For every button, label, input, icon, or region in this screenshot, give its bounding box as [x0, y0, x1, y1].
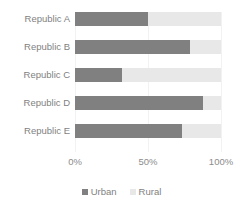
- table-row: [75, 40, 221, 54]
- bar-segment-rural: [190, 40, 221, 54]
- legend-label-urban: Urban: [91, 186, 117, 197]
- legend-item-urban[interactable]: Urban: [82, 186, 117, 197]
- bar-segment-rural: [182, 124, 221, 138]
- bar-segment-urban: [75, 40, 190, 54]
- category-label-republic-c: Republic C: [0, 68, 70, 82]
- table-row: [75, 96, 221, 110]
- bar-segment-urban: [75, 68, 122, 82]
- table-row: [75, 12, 221, 26]
- bar-segment-urban: [75, 12, 148, 26]
- xtick-label-50: 50%: [128, 156, 168, 167]
- xtick-label-100: 100%: [201, 156, 241, 167]
- bar-segment-urban: [75, 96, 203, 110]
- bar-segment-rural: [148, 12, 221, 26]
- category-label-republic-a: Republic A: [0, 12, 70, 26]
- bar-segment-rural: [122, 68, 221, 82]
- legend-swatch-rural-icon: [130, 189, 136, 195]
- category-label-republic-b: Republic B: [0, 40, 70, 54]
- category-label-republic-e: Republic E: [0, 124, 70, 138]
- table-row: [75, 68, 221, 82]
- bar-segment-urban: [75, 124, 182, 138]
- xtick-label-0: 0%: [55, 156, 95, 167]
- bar-segment-rural: [203, 96, 221, 110]
- chart-legend: Urban Rural: [0, 186, 243, 197]
- table-row: [75, 124, 221, 138]
- legend-label-rural: Rural: [139, 186, 162, 197]
- legend-item-rural[interactable]: Rural: [130, 186, 162, 197]
- gridline-100: [221, 12, 222, 152]
- category-label-republic-d: Republic D: [0, 96, 70, 110]
- legend-swatch-urban-icon: [82, 189, 88, 195]
- plot-area: [75, 12, 221, 152]
- stacked-bar-chart: Republic A Republic B Republic C Republi…: [0, 0, 243, 209]
